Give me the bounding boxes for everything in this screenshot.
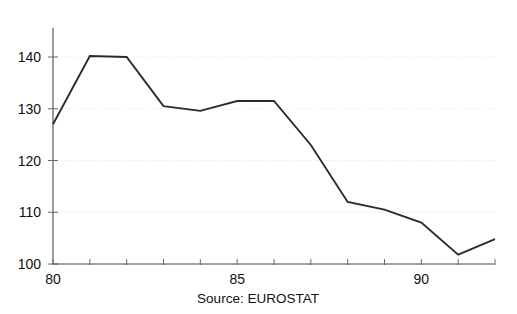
- data-series-line: [53, 56, 495, 255]
- y-tick-labels: 100110120130140: [18, 49, 42, 272]
- x-tick-labels: 808590: [45, 271, 429, 287]
- y-tick-label-130: 130: [18, 101, 42, 117]
- source-note: Source: EUROSTAT: [197, 291, 319, 306]
- y-tick-label-110: 110: [19, 204, 42, 220]
- y-tick-label-100: 100: [18, 256, 42, 272]
- y-tick-label-120: 120: [18, 153, 42, 169]
- line-chart: 100110120130140 808590 Source: EUROSTAT: [0, 0, 517, 314]
- x-tick-label-90: 90: [414, 271, 430, 287]
- chart-canvas: 100110120130140 808590 Source: EUROSTAT: [0, 0, 517, 314]
- y-axis: 100110120130140: [18, 28, 58, 272]
- x-axis: 808590: [45, 259, 495, 287]
- x-tick-label-80: 80: [45, 271, 61, 287]
- y-tick-label-140: 140: [18, 49, 42, 65]
- gridlines-group: [53, 57, 495, 212]
- data-series-group: [53, 56, 495, 255]
- x-tick-label-85: 85: [229, 271, 245, 287]
